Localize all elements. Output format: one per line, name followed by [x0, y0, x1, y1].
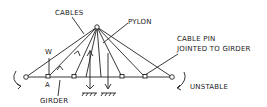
cable: [26, 27, 97, 77]
cables-leader: [72, 17, 84, 34]
unstable-label: UNSTABLE: [190, 83, 228, 91]
girder-label: GIRDER: [40, 97, 68, 105]
joint-node: [72, 75, 76, 79]
pin-node: [24, 75, 29, 80]
pin-node: [170, 75, 175, 80]
cable: [97, 27, 145, 77]
cable: [86, 27, 97, 77]
w-label: W: [45, 48, 52, 56]
cable-pin-label-2: JOINTED TO GIRDER: [177, 45, 251, 53]
joint-node: [120, 75, 124, 79]
cable: [74, 27, 97, 77]
joint-node: [46, 75, 50, 79]
pylon-label: PYLON: [128, 18, 152, 26]
joint-node: [143, 75, 147, 79]
arrowhead: [74, 51, 80, 56]
cable-pin-label-1: CABLE PIN: [177, 35, 215, 43]
pylon-top-node: [95, 25, 99, 29]
cables-label: CABLES: [55, 9, 83, 17]
cable-stayed-girder-diagram: CABLES PYLON W A GIRDER CABLE PIN JOINTE…: [0, 0, 267, 107]
a-label: A: [45, 81, 50, 89]
cable-pin-leader: [145, 54, 178, 75]
rotation-arrow-left: [14, 71, 20, 86]
girder-leader: [58, 80, 60, 96]
